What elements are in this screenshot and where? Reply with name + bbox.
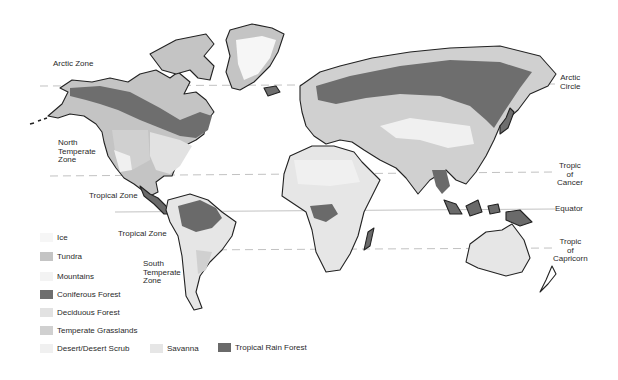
swatch-desert <box>40 344 53 353</box>
indonesia-islands <box>444 200 532 226</box>
legend-item-deciduous-forest: Deciduous Forest <box>40 308 120 317</box>
label-tropic-of-capricorn: Tropic of Capricorn <box>553 238 588 264</box>
se-asia-rainforest <box>432 170 450 194</box>
label-tropical-zone-north: Tropical Zone <box>89 192 138 201</box>
legend-item-ice: Ice <box>40 233 68 242</box>
legend-item-savanna: Savanna <box>150 344 199 353</box>
legend-label: Mountains <box>57 272 94 281</box>
legend-label: Ice <box>57 233 68 242</box>
legend-label: Savanna <box>167 344 199 353</box>
label-equator: Equator <box>555 205 583 214</box>
swatch-tundra <box>40 252 53 261</box>
swatch-coniferous-forest <box>40 290 53 299</box>
new-zealand <box>540 266 556 292</box>
swatch-temperate-grasslands <box>40 326 53 335</box>
legend-item-tundra: Tundra <box>40 252 82 261</box>
label-tropic-of-cancer: Tropic of Cancer <box>557 162 583 188</box>
legend-item-tropical-rain-forest: Tropical Rain Forest <box>218 343 307 352</box>
greenland-ice <box>236 36 276 80</box>
legend-item-desert: Desert/Desert Scrub <box>40 344 129 353</box>
label-south-temperate-zone: South Temperate Zone <box>143 260 181 286</box>
swatch-deciduous-forest <box>40 308 53 317</box>
iceland <box>264 86 280 96</box>
legend-item-coniferous-forest: Coniferous Forest <box>40 290 121 299</box>
swatch-ice <box>40 233 53 242</box>
label-arctic-zone: Arctic Zone <box>53 60 93 69</box>
legend-item-temperate-grasslands: Temperate Grasslands <box>40 326 137 335</box>
swatch-savanna <box>150 344 163 353</box>
legend-label: Tropical Rain Forest <box>235 343 307 352</box>
world-biome-map <box>0 0 618 380</box>
swatch-mountains <box>40 272 53 281</box>
legend-label: Tundra <box>57 252 82 261</box>
legend-item-mountains: Mountains <box>40 272 94 281</box>
swatch-tropical-rain-forest <box>218 343 231 352</box>
label-north-temperate-zone: North Temperate Zone <box>58 139 96 165</box>
madagascar <box>364 228 374 250</box>
sahara-desert <box>294 160 360 186</box>
legend-label: Deciduous Forest <box>57 308 120 317</box>
australia <box>466 224 530 276</box>
aleutian-islands <box>30 118 47 124</box>
label-tropical-zone-south: Tropical Zone <box>118 230 167 239</box>
label-arctic-circle: Arctic Circle <box>560 74 580 91</box>
legend-label: Temperate Grasslands <box>57 326 137 335</box>
legend-label: Desert/Desert Scrub <box>57 344 129 353</box>
legend-label: Coniferous Forest <box>57 290 121 299</box>
